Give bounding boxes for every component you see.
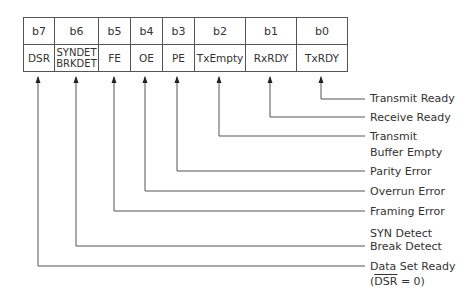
connector-b0 [321, 77, 365, 99]
label-break-detect: Break Detect [370, 240, 442, 253]
label-transmit-ready: Transmit Ready [370, 92, 455, 105]
dsr-overlined: DSR [374, 275, 397, 288]
label-syn-detect: SYN Detect [370, 227, 432, 240]
arrowhead-b1-icon [268, 76, 273, 83]
label-data-set-ready-text: Data Set Ready [370, 260, 455, 273]
arrowhead-b5-icon [112, 76, 117, 83]
connector-b3 [177, 77, 365, 171]
connector-b4 [145, 77, 365, 191]
label-transmit-buffer-empty: Transmit Buffer Empty [370, 130, 442, 159]
label-parity-error: Parity Error [370, 165, 432, 178]
label-data-set-ready: Data Set Ready (DSR = 0) [370, 260, 455, 288]
label-dsr-condition: (DSR = 0) [370, 275, 455, 288]
label-buffer-empty: Buffer Empty [370, 146, 442, 159]
arrowhead-b3-icon [175, 76, 180, 83]
label-overrun-error: Overrun Error [370, 185, 445, 198]
connector-b6 [76, 77, 365, 246]
arrowhead-b0-icon [319, 76, 324, 83]
label-transmit: Transmit [370, 130, 442, 143]
arrowhead-b6-icon [74, 76, 79, 83]
connector-b1 [270, 77, 365, 117]
label-framing-error: Framing Error [370, 205, 445, 218]
arrowhead-b4-icon [143, 76, 148, 83]
connector-b2 [219, 77, 365, 136]
label-receive-ready: Receive Ready [370, 111, 451, 124]
arrowhead-b7-icon [36, 76, 41, 83]
arrowhead-b2-icon [217, 76, 222, 83]
